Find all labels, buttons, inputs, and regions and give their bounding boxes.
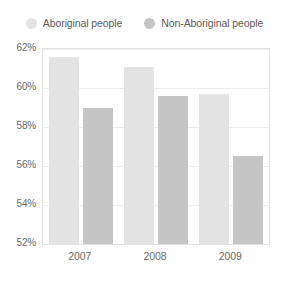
x-tick-label: 2007	[68, 250, 91, 262]
bar-2007-aboriginal	[49, 57, 79, 244]
bar-2009-aboriginal	[199, 94, 229, 244]
y-tick-label: 60%	[0, 82, 36, 92]
y-axis: 52%54%56%58%60%62%	[0, 48, 36, 245]
x-tick-label: 2009	[219, 250, 242, 262]
y-tick-label: 58%	[0, 121, 36, 131]
legend-item-aboriginal-people: Aboriginal people	[26, 17, 122, 29]
y-tick-label: 56%	[0, 160, 36, 170]
bar-2008-aboriginal	[124, 67, 154, 244]
bar-chart: Aboriginal people Non-Aboriginal people …	[0, 0, 289, 288]
legend-swatch-icon	[26, 18, 37, 29]
legend-swatch-icon	[144, 18, 155, 29]
chart-legend: Aboriginal people Non-Aboriginal people	[0, 12, 289, 34]
y-tick-label: 62%	[0, 43, 36, 53]
gridline	[43, 49, 269, 50]
bar-2008-non-aboriginal	[158, 96, 188, 244]
y-tick-label: 52%	[0, 238, 36, 248]
x-axis: 200720082009	[42, 250, 270, 268]
legend-label: Aboriginal people	[43, 17, 122, 29]
x-tick-label: 2008	[144, 250, 167, 262]
bar-2009-non-aboriginal	[233, 156, 263, 244]
bar-2007-non-aboriginal	[83, 108, 113, 245]
plot-area	[42, 48, 270, 245]
y-tick-label: 54%	[0, 199, 36, 209]
legend-label: Non-Aboriginal people	[161, 17, 263, 29]
legend-item-non-aboriginal-people: Non-Aboriginal people	[144, 17, 263, 29]
